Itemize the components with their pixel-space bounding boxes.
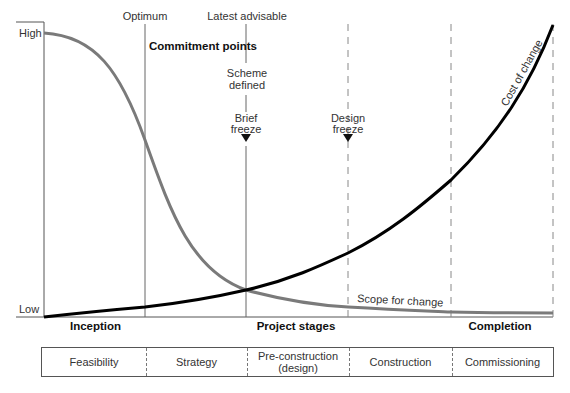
stage-strategy: Strategy	[146, 348, 247, 376]
y-low-label: Low	[19, 303, 39, 315]
stage-label: Commissioning	[465, 356, 540, 368]
stage-label: Construction	[370, 356, 432, 368]
cost-of-change-label: Cost of change	[498, 37, 544, 108]
inception-label: Inception	[70, 320, 121, 332]
scope-for-change-curve	[44, 33, 553, 313]
scheme-defined-label-1: Scheme	[227, 67, 267, 79]
design-freeze-arrow-icon	[343, 134, 353, 142]
latest-advisable-label: Latest advisable	[207, 10, 287, 22]
design-freeze-label-2: freeze	[333, 123, 364, 135]
stage-commissioning: Commissioning	[452, 348, 553, 376]
brief-freeze-label-2: freeze	[231, 123, 262, 135]
optimum-label: Optimum	[123, 10, 168, 22]
brief-freeze-arrow-icon	[241, 134, 251, 142]
stage-construction: Construction	[349, 348, 452, 376]
completion-label: Completion	[468, 320, 531, 332]
stage-feasibility: Feasibility	[42, 348, 146, 376]
stage-label: Pre-construction (design)	[258, 350, 338, 374]
x-axis-title: Project stages	[257, 320, 336, 332]
project-stages-strip: Feasibility Strategy Pre-construction (d…	[41, 347, 554, 377]
y-high-label: High	[19, 27, 42, 39]
scope-for-change-label: Scope for change	[357, 292, 444, 308]
cost-of-change-curve	[44, 25, 553, 317]
stage-pre-construction: Pre-construction (design)	[247, 348, 349, 376]
scheme-defined-label-2: defined	[229, 79, 265, 91]
stage-label: Feasibility	[70, 356, 119, 368]
stage-label: Strategy	[176, 356, 217, 368]
commitment-diagram: High Low Inception Project stages Comple…	[0, 0, 570, 393]
commitment-points-label: Commitment points	[149, 40, 257, 52]
